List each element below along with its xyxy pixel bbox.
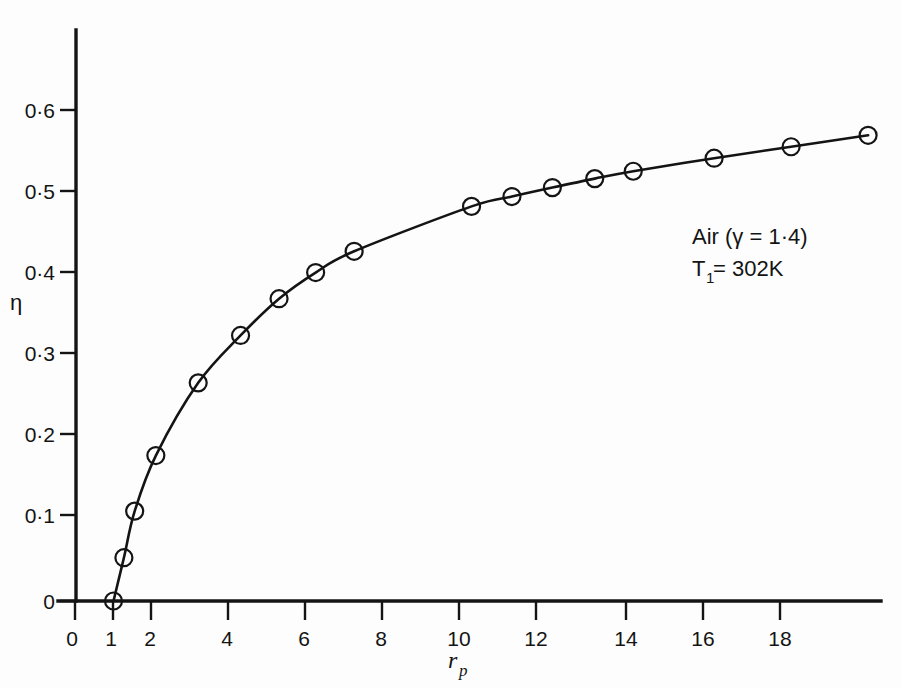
y-tick-label-0.3: 0·3: [25, 342, 55, 365]
annotation-line-2-rest: = 302K: [713, 256, 784, 281]
x-tick-labels: 0 1 2 4 6 8 10 12 14 16 18: [66, 627, 792, 650]
x-tick-label-1: 1: [105, 627, 117, 650]
x-axis-title-subscript: p: [458, 661, 468, 680]
x-tick-label-16: 16: [691, 627, 714, 650]
y-axis-title: η: [10, 290, 22, 315]
y-tick-labels: 0·6 0·5 0·4 0·3 0·2 0·1 0: [25, 99, 56, 613]
annotation-gas-properties: Air (γ = 1·4) T 1 = 302K: [692, 224, 808, 286]
x-tick-label-14: 14: [614, 627, 638, 650]
x-tick-label-4: 4: [221, 627, 233, 650]
x-axis-title: r p: [448, 647, 468, 680]
y-tick-marks: [60, 110, 76, 601]
y-tick-label-0: 0: [43, 590, 55, 613]
x-tick-label-18: 18: [768, 627, 791, 650]
figure-canvas: 0·6 0·5 0·4 0·3 0·2 0·1 0 η 0 1: [0, 0, 901, 688]
data-curve: [114, 135, 869, 601]
x-tick-label-12: 12: [524, 627, 547, 650]
y-tick-label-0.1: 0·1: [25, 504, 55, 527]
x-tick-marks: [75, 601, 780, 620]
x-tick-label-2: 2: [144, 627, 156, 650]
y-tick-label-0.6: 0·6: [25, 99, 55, 122]
annotation-line-1: Air (γ = 1·4): [692, 224, 808, 249]
y-tick-label-0.5: 0·5: [25, 180, 55, 203]
x-tick-label-6: 6: [298, 627, 310, 650]
annotation-line-2-base: T: [692, 256, 705, 281]
y-tick-label-0.4: 0·4: [25, 261, 56, 284]
x-axis-title-base: r: [448, 647, 458, 673]
x-tick-label-0: 0: [66, 627, 78, 650]
y-tick-label-0.2: 0·2: [25, 423, 55, 446]
data-markers: [105, 127, 877, 610]
x-tick-label-8: 8: [375, 627, 387, 650]
chart-svg: 0·6 0·5 0·4 0·3 0·2 0·1 0 η 0 1: [0, 0, 901, 688]
